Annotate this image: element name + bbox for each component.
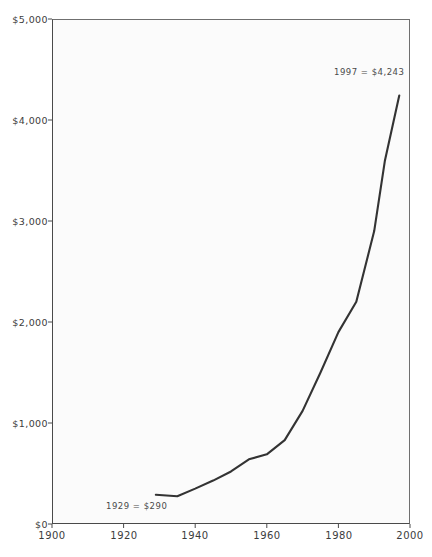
line-chart: $5,000 $4,000 $3,000 $2,000 $1,000 $0 19… [0, 0, 432, 557]
chart-canvas [0, 0, 432, 557]
tick-marks [48, 19, 410, 528]
data-line [156, 95, 399, 496]
